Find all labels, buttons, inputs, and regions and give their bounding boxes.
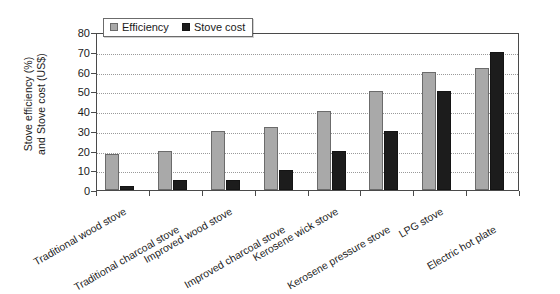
legend-swatch-efficiency-icon <box>110 23 118 31</box>
legend: EfficiencyStove cost <box>103 18 253 37</box>
bar-efficiency <box>422 72 436 191</box>
bar-efficiency <box>369 91 383 190</box>
y-axis-title-line-2: and Stove cost (US$) <box>35 14 48 194</box>
gridline <box>97 54 518 55</box>
x-axis-category-label: Electric hot plate <box>319 223 498 294</box>
x-axis-tick-mark <box>360 191 361 196</box>
plot-area <box>96 33 519 191</box>
x-axis-tick-mark <box>519 191 520 196</box>
y-axis-tick-label: 20 <box>64 146 90 157</box>
bar-efficiency <box>475 68 489 190</box>
y-axis-title: Stove efficiency (%) and Stove cost (US$… <box>22 0 62 14</box>
gridline <box>97 133 518 134</box>
bar-efficiency <box>105 154 119 190</box>
bar-stove-cost <box>384 131 398 190</box>
bar-stove-cost <box>332 151 346 191</box>
y-axis-tick-label: 80 <box>64 28 90 39</box>
x-axis-category-label: Improved charcoal stove <box>107 223 286 294</box>
legend-label: Stove cost <box>194 21 245 33</box>
x-axis-category-label: Improved wood stove <box>55 205 234 294</box>
x-axis-tick-mark <box>413 191 414 196</box>
bar-stove-cost <box>490 52 504 190</box>
x-axis-category-label: Kerosene wick stove <box>160 205 339 294</box>
gridline <box>97 74 518 75</box>
gridline <box>97 113 518 114</box>
y-axis-tick-label: 0 <box>64 186 90 197</box>
x-axis-category-label: Traditional charcoal stove <box>2 223 181 294</box>
x-axis-category-label: Kerosene pressure stove <box>213 223 392 294</box>
legend-label: Efficiency <box>122 21 169 33</box>
y-axis-tick-label: 30 <box>64 126 90 137</box>
x-axis-tick-mark <box>255 191 256 196</box>
x-axis-tick-mark <box>466 191 467 196</box>
x-axis-tick-mark <box>308 191 309 196</box>
x-axis-tick-mark <box>149 191 150 196</box>
bar-efficiency <box>211 131 225 190</box>
legend-entry-efficiency[interactable]: Efficiency <box>110 21 169 33</box>
legend-entry-cost[interactable]: Stove cost <box>182 21 245 33</box>
y-axis-tick-label: 70 <box>64 47 90 58</box>
y-axis-tick-label: 40 <box>64 107 90 118</box>
bar-stove-cost <box>226 180 240 190</box>
x-axis-tick-mark <box>202 191 203 196</box>
y-axis-tick-label: 60 <box>64 67 90 78</box>
legend-swatch-cost-icon <box>182 23 190 31</box>
bar-efficiency <box>158 151 172 191</box>
bar-efficiency <box>317 111 331 190</box>
y-axis-title-line-1: Stove efficiency (%) <box>22 14 35 194</box>
bar-stove-cost <box>173 180 187 190</box>
gridline <box>97 93 518 94</box>
x-axis-tick-mark <box>96 191 97 196</box>
x-axis-category-label: LPG stove <box>266 205 445 294</box>
bar-stove-cost <box>279 170 293 190</box>
bar-efficiency <box>264 127 278 190</box>
bar-stove-cost <box>120 186 134 190</box>
y-axis-tick-label: 10 <box>64 166 90 177</box>
x-axis-category-label: Traditional wood stove <box>0 205 128 294</box>
y-axis-tick-labels: 01020304050607080 <box>62 33 90 191</box>
y-axis-tick-label: 50 <box>64 87 90 98</box>
bar-stove-cost <box>437 91 451 190</box>
